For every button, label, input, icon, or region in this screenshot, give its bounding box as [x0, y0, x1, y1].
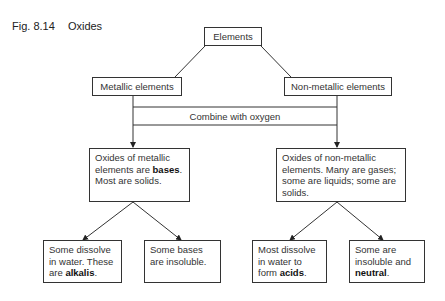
metal-oxides-keyword: bases — [153, 164, 180, 175]
node-nonmetallic-elements: Non-metallic elements — [284, 77, 392, 96]
process-label: Combine with oxygen — [190, 111, 281, 122]
node-metal-oxides: Oxides of metallic elements are bases. M… — [89, 148, 190, 202]
neutral-text: Some are insoluble and — [355, 244, 411, 267]
node-nonmetallic-label: Non-metallic elements — [291, 81, 385, 93]
process-combine-with-oxygen: Combine with oxygen — [133, 107, 337, 125]
node-acids: Most dissolve in water to form acids. — [252, 240, 327, 283]
acids-keyword: acids — [280, 267, 304, 278]
insoluble-bases-text: Some bases are insoluble. — [150, 244, 207, 267]
alkalis-keyword: alkalis — [65, 267, 94, 278]
node-metallic-elements: Metallic elements — [92, 77, 182, 96]
node-elements-label: Elements — [213, 31, 253, 43]
nonmetal-oxides-text: Oxides of non-metallic elements. Many ar… — [282, 152, 396, 198]
acids-text-end: . — [304, 267, 307, 278]
node-alkalis: Some dissolve in water. These are alkali… — [43, 240, 122, 283]
node-nonmetal-oxides: Oxides of non-metallic elements. Many ar… — [276, 148, 406, 202]
node-metallic-label: Metallic elements — [100, 81, 173, 93]
node-elements: Elements — [204, 27, 262, 46]
node-neutral: Some are insoluble and neutral. — [349, 240, 425, 283]
alkalis-text-end: . — [94, 267, 97, 278]
node-insoluble-bases: Some bases are insoluble. — [144, 240, 221, 283]
neutral-text-end: . — [387, 267, 390, 278]
neutral-keyword: neutral — [355, 267, 387, 278]
